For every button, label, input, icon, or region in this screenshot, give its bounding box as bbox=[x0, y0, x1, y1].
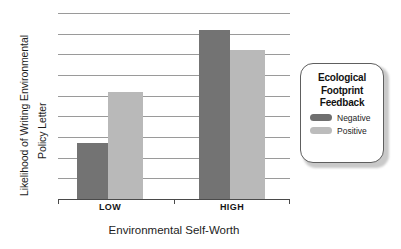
bar-low-negative bbox=[77, 143, 108, 199]
y-axis-title-line-1: Likelihood of Writing Environmental bbox=[18, 35, 30, 196]
bar-low-positive bbox=[108, 92, 143, 199]
legend-entry-positive[interactable]: Positive bbox=[301, 126, 383, 136]
axis-tick-right bbox=[289, 199, 290, 204]
legend-swatch-negative bbox=[310, 114, 332, 121]
axis-tick-left bbox=[58, 199, 59, 204]
bar-high-positive bbox=[230, 50, 265, 199]
x-tick-label-low: LOW bbox=[80, 202, 140, 212]
gridline-9 bbox=[58, 13, 290, 14]
bar-high-negative bbox=[199, 30, 230, 199]
y-axis-title-line-2: Policy Letter bbox=[36, 103, 48, 159]
axis-tick-center bbox=[174, 199, 175, 204]
y-axis-title: Likelihood of Writing Environmental Poli… bbox=[0, 0, 56, 210]
gridline-8 bbox=[58, 34, 290, 35]
legend-box: Ecological Footprint Feedback Negative P… bbox=[300, 63, 384, 163]
legend-title-line-1: Ecological bbox=[301, 72, 383, 85]
legend-entry-negative[interactable]: Negative bbox=[301, 113, 383, 123]
x-axis-title: Environmental Self-Worth bbox=[0, 224, 348, 236]
legend-label-positive: Positive bbox=[337, 126, 367, 136]
legend-title-line-2: Footprint bbox=[301, 85, 383, 98]
x-tick-label-high: HIGH bbox=[202, 202, 262, 212]
legend-label-negative: Negative bbox=[337, 113, 371, 123]
legend-title-line-3: Feedback bbox=[301, 97, 383, 110]
legend-swatch-positive bbox=[310, 127, 332, 134]
plot-area bbox=[58, 9, 290, 200]
bar-chart-figure: Likelihood of Writing Environmental Poli… bbox=[0, 0, 401, 249]
